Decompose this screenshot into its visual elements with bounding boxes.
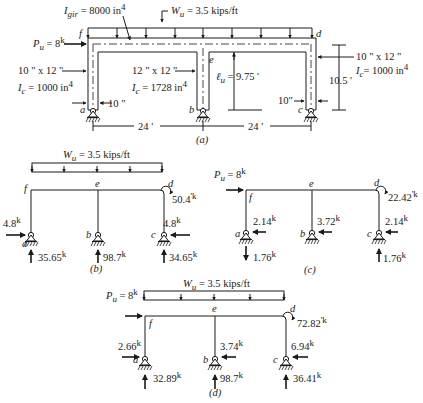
node-f-b: f: [24, 183, 29, 194]
left-column-size: 10 " x 12 ": [18, 65, 63, 76]
left-column-inertia: Ic = 1000 in4: [17, 79, 73, 96]
figure-c: Pu = 8k f e d a b c 22.42'k 2.14k 3.72k …: [213, 166, 418, 276]
node-d-d: d: [290, 303, 296, 314]
unbraced-length-label: ℓu = 9.75 ': [216, 71, 259, 85]
figure-a: a b c d e f Igir = 8000 in4 Wu = 3.5 kip…: [17, 2, 409, 146]
reaction-hc-c: 2.14k: [385, 213, 408, 227]
reaction-va-b: 35.65k: [38, 249, 67, 263]
load-pu-label-d: Pu = 8k: [105, 287, 138, 304]
reaction-ha-b: 4.8k: [3, 215, 21, 229]
node-a: a: [80, 104, 85, 115]
node-c: c: [298, 104, 303, 115]
node-f: f: [79, 28, 84, 39]
reaction-va-d: 32.89k: [153, 370, 182, 384]
figure-d: Wu = 3.5 kips/ft Pu = 8k f e d a b c 72.…: [105, 278, 327, 399]
node-d: d: [316, 28, 322, 39]
span-left-dim: 24 ': [138, 121, 153, 132]
caption-d: (d): [209, 387, 222, 399]
node-b-d: b: [203, 354, 208, 365]
reaction-vc-d: 36.41k: [293, 370, 322, 384]
node-f-c: f: [249, 192, 254, 203]
node-c-d: c: [273, 354, 278, 365]
right-column-size: 10 " x 12 ": [356, 51, 401, 62]
figure-b: Wu = 3.5 kips/ft f e d a b c 50.4'k 4.8k…: [3, 149, 198, 275]
load-wu-label: Wu = 3.5 kips/ft: [171, 5, 238, 19]
caption-c: (c): [304, 264, 316, 276]
reaction-hb-d: 3.74k: [220, 338, 243, 352]
node-e-c: e: [309, 178, 314, 189]
load-wu-label-d: Wu = 3.5 kips/ft: [183, 278, 250, 292]
node-a-c: a: [235, 228, 240, 239]
reaction-ha-d: 2.66k: [118, 338, 141, 352]
reaction-vb-b: 98.7k: [103, 249, 126, 263]
caption-a: (a): [196, 134, 209, 146]
load-wu-label-b: Wu = 3.5 kips/ft: [63, 149, 130, 163]
caption-b: (b): [90, 263, 103, 275]
load-pu-label-c: Pu = 8k: [213, 166, 246, 183]
reaction-ha-c: 2.14k: [253, 213, 276, 227]
node-b-b: b: [86, 229, 91, 240]
reaction-hc-b: 4.8k: [163, 215, 181, 229]
reaction-vb-d: 98.7k: [220, 370, 243, 384]
distributed-load-a: [88, 28, 312, 38]
middle-column-size: 12 " x 12 ": [132, 65, 177, 76]
node-e-d: e: [212, 303, 217, 314]
reaction-hb-c: 3.72k: [317, 213, 340, 227]
right-column-inertia: Ic= 1000 in4: [355, 62, 409, 79]
node-a-d: a: [133, 354, 138, 365]
node-c-b: c: [151, 229, 156, 240]
reaction-va-c: 1.76k: [253, 249, 276, 263]
node-b: b: [189, 104, 194, 115]
node-e: e: [209, 54, 214, 65]
right-column-width: 10": [278, 95, 293, 106]
reaction-vc-c: 1.76k: [383, 250, 406, 264]
node-c-c: c: [367, 228, 372, 239]
load-pu-label: Pu = 8k: [32, 35, 65, 52]
middle-column-inertia: Ic = 1728 in4: [131, 79, 187, 96]
node-b-c: b: [300, 228, 305, 239]
frame-analysis-diagram: a b c d e f Igir = 8000 in4 Wu = 3.5 kip…: [0, 0, 423, 403]
node-e-b: e: [95, 178, 100, 189]
reaction-hc-d: 6.94k: [291, 338, 314, 352]
node-f-d: f: [149, 318, 154, 329]
frame-height-dim: 10.5 ': [329, 75, 352, 86]
span-right-dim: 24 ': [248, 121, 263, 132]
reaction-vc-b: 34.65k: [169, 249, 198, 263]
node-a-b: a: [22, 238, 27, 249]
girder-inertia-label: Igir = 8000 in4: [63, 2, 126, 19]
moment-d-c: 22.42'k: [388, 189, 418, 203]
moment-d-d: 72.82'k: [297, 315, 327, 329]
moment-d-b: 50.4'k: [172, 191, 197, 205]
left-column-width: 10 ": [108, 98, 125, 109]
